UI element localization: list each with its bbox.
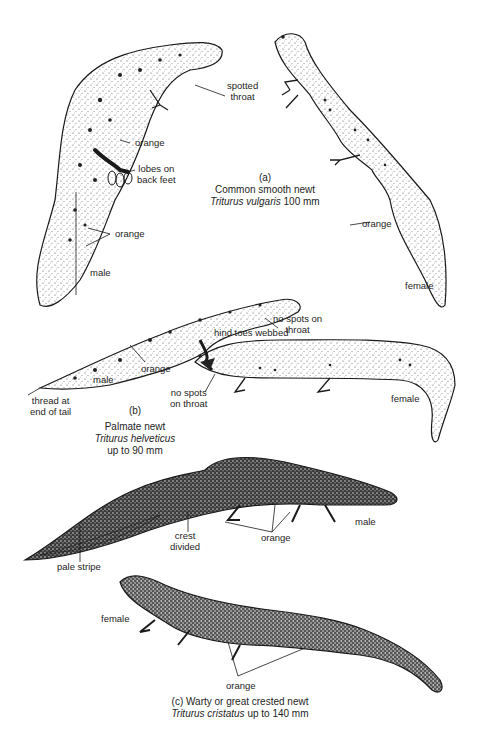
caption-common-name: Warty or great crested newt — [186, 696, 308, 707]
label-crest-divided: crest divided — [170, 530, 200, 552]
caption-size: up to 140 mm — [247, 708, 308, 719]
palmate-newt-female — [195, 340, 455, 442]
crested-newt-female — [120, 576, 442, 692]
label-orange-tail: orange — [115, 228, 145, 239]
label-hind-toes-webbed: hind toes webbed — [214, 327, 288, 338]
label-orange-male-c: orange — [261, 532, 291, 543]
caption-b: (b) Palmate newt Triturus helveticus up … — [70, 405, 200, 457]
label-male-b: male — [93, 374, 114, 385]
label-female-a: female — [405, 280, 434, 291]
label-spotted-throat: spotted throat — [227, 80, 258, 102]
caption-scientific-name: Triturus vulgaris — [210, 196, 280, 207]
label-orange-female-a: orange — [362, 218, 392, 229]
label-male-c: male — [355, 516, 376, 527]
caption-c: (c) Warty or great crested newt Triturus… — [140, 696, 340, 720]
label-pale-stripe: pale stripe — [57, 561, 101, 572]
caption-common-name: Palmate newt — [70, 421, 200, 433]
newt-illustrations — [0, 0, 481, 748]
label-female-b: female — [391, 393, 420, 404]
label-orange-body: orange — [135, 137, 165, 148]
caption-marker: (b) — [70, 405, 200, 417]
caption-marker: (a) — [190, 172, 340, 184]
caption-scientific-name: Triturus helveticus — [70, 433, 200, 445]
caption-common-name: Common smooth newt — [190, 184, 340, 196]
label-orange-b: orange — [141, 363, 171, 374]
caption-size: 100 mm — [284, 196, 320, 207]
label-male-a: male — [90, 267, 111, 278]
caption-marker: (c) — [172, 696, 184, 707]
crested-newt-male — [25, 457, 397, 562]
caption-scientific-name: Triturus cristatus — [171, 708, 244, 719]
caption-size: up to 90 mm — [70, 445, 200, 457]
label-lobes-back-feet: lobes on back feet — [137, 163, 176, 185]
label-thread-end-of-tail: thread at end of tail — [30, 395, 71, 417]
smooth-newt-female — [275, 34, 446, 307]
label-orange-female-c: orange — [226, 680, 256, 691]
label-female-c: female — [101, 613, 130, 624]
caption-a: (a) Common smooth newt Triturus vulgaris… — [190, 172, 340, 208]
